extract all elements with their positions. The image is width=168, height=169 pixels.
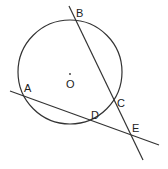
center-point-o — [69, 73, 71, 75]
label-o: O — [66, 78, 75, 90]
geometry-diagram: B A O C D E — [0, 0, 168, 169]
circle-o — [18, 20, 122, 124]
label-c: C — [117, 97, 125, 109]
label-b: B — [76, 7, 83, 19]
label-a: A — [24, 82, 32, 94]
secant-line-be — [69, 6, 143, 160]
label-d: D — [91, 109, 99, 121]
secant-line-ae — [10, 91, 159, 145]
label-e: E — [132, 122, 139, 134]
